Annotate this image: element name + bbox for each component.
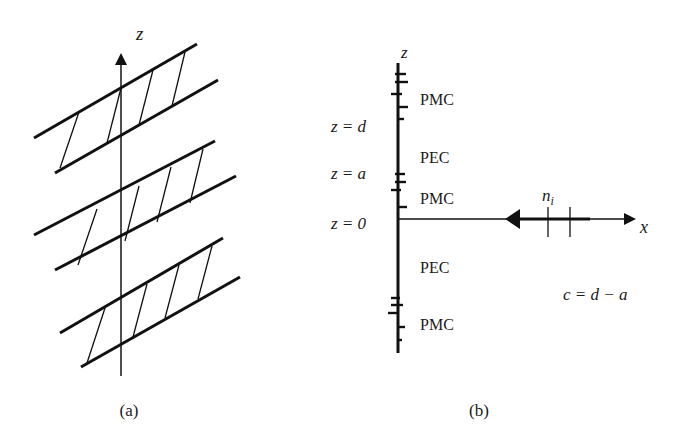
strip-2 — [34, 141, 236, 270]
caption-a: (a) — [120, 401, 139, 420]
z-axis-arrow-icon — [115, 53, 127, 65]
label-z-equals-a: z = a — [330, 164, 366, 183]
x-axis-arrow-icon — [624, 213, 636, 225]
label-z-equals-0: z = 0 — [330, 214, 367, 233]
caption-b: (b) — [469, 401, 489, 420]
strip-3 — [60, 238, 240, 367]
region-label-pec-top: PEC — [420, 149, 449, 166]
panel-b: z x ni — [330, 43, 648, 420]
x-axis-label: x — [639, 217, 648, 237]
region-label-pmc-top: PMC — [420, 91, 454, 108]
region-label-pmc-bottom: PMC — [420, 316, 454, 333]
region-label-pmc-mid: PMC — [420, 190, 454, 207]
label-z-equals-d: z = d — [330, 117, 367, 136]
figure-canvas: z (a) — [0, 0, 687, 444]
region-label-pec-bottom: PEC — [420, 259, 449, 276]
incident-wave-arrow-icon — [505, 209, 520, 229]
z-axis-label-a: z — [135, 23, 144, 44]
incidence-label: ni — [542, 186, 554, 208]
panel-a: z (a) — [34, 23, 240, 420]
z-axis-label-b: z — [400, 43, 408, 62]
relation-c-equals-d-minus-a: c = d − a — [563, 285, 628, 304]
